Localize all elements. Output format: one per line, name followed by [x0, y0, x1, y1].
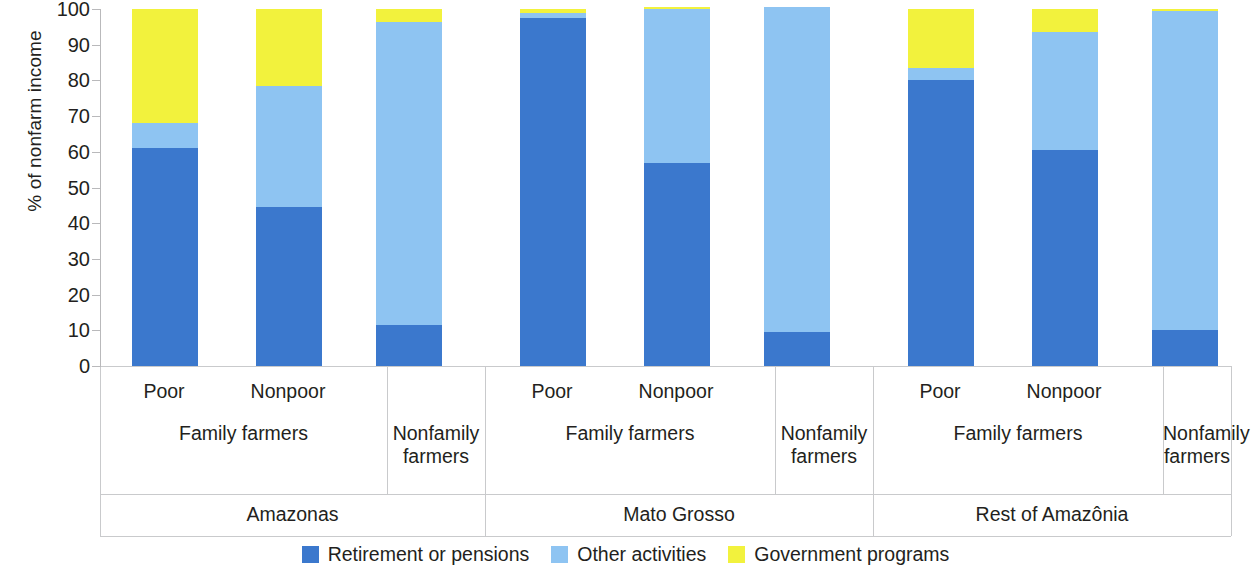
bar-column [376, 9, 442, 366]
bar-segment [132, 9, 198, 123]
x-label-nonfamily-line1: Nonfamily [775, 422, 873, 445]
y-axis-tick-label: 80 [24, 70, 90, 90]
y-axis-tick-mark [92, 80, 101, 81]
chart-legend: Retirement or pensionsOther activitiesGo… [0, 543, 1251, 566]
x-label-nonfamily-line2: farmers [775, 445, 873, 468]
legend-label: Retirement or pensions [328, 543, 530, 566]
y-axis-tick-label: 40 [24, 213, 90, 233]
label-divider-vertical [1231, 366, 1232, 536]
x-label-region: Mato Grosso [485, 503, 873, 526]
plot-area [101, 9, 1230, 366]
bar-segment [908, 80, 974, 366]
bar-column [256, 9, 322, 366]
x-label-family-farmers: Family farmers [873, 422, 1163, 445]
y-axis-tick-mark [92, 152, 101, 153]
x-label-poverty-class: Nonpoor [984, 380, 1144, 403]
legend-label: Other activities [577, 543, 706, 566]
x-label-family-farmers: Family farmers [100, 422, 387, 445]
bar-segment [1152, 11, 1218, 331]
bar-column [1152, 9, 1218, 366]
x-label-nonfamily-farmers: Nonfamilyfarmers [1163, 422, 1231, 468]
y-axis-tick-mark [92, 259, 101, 260]
bar-segment [644, 9, 710, 163]
x-label-nonfamily-farmers: Nonfamilyfarmers [387, 422, 485, 468]
x-axis-label-zone: PoorNonpoorPoorNonpoorPoorNonpoorFamily … [100, 366, 1231, 538]
bar-column [1032, 9, 1098, 366]
y-axis-tick-mark [92, 330, 101, 331]
label-divider-bottom [100, 536, 1231, 537]
bar-segment [520, 18, 586, 366]
bar-segment [764, 7, 830, 332]
x-label-nonfamily-line2: farmers [387, 445, 485, 468]
label-divider-top [100, 366, 1231, 367]
y-axis-tick-label: 60 [24, 142, 90, 162]
y-axis-tick-labels: 1009080706050403020100 [24, 0, 90, 380]
y-axis-tick-mark [92, 45, 101, 46]
legend-item[interactable]: Government programs [728, 543, 949, 566]
bar-segment [1032, 150, 1098, 366]
y-axis-tick-label: 90 [24, 35, 90, 55]
bar-column [908, 9, 974, 366]
y-axis-tick-label: 30 [24, 249, 90, 269]
legend-swatch-icon [728, 546, 745, 563]
bar-segment [908, 9, 974, 68]
legend-swatch-icon [302, 546, 319, 563]
y-axis-tick-mark [92, 223, 101, 224]
legend-label: Government programs [754, 543, 949, 566]
bar-segment [256, 86, 322, 207]
y-axis-tick-label: 0 [24, 356, 90, 376]
bar-column [764, 7, 830, 366]
legend-swatch-icon [551, 546, 568, 563]
x-label-nonfamily-line2: farmers [1163, 445, 1231, 468]
legend-item[interactable]: Other activities [551, 543, 706, 566]
stacked-bar-chart: % of nonfarm income 10090807060504030201… [0, 0, 1251, 573]
bar-segment [256, 9, 322, 86]
bar-segment [256, 207, 322, 366]
y-axis-tick-label: 70 [24, 106, 90, 126]
y-axis-tick-mark [92, 295, 101, 296]
x-label-nonfamily-line1: Nonfamily [387, 422, 485, 445]
bar-segment [764, 332, 830, 366]
bar-column [520, 9, 586, 366]
x-label-nonfamily-farmers: Nonfamilyfarmers [775, 422, 873, 468]
y-axis-tick-label: 20 [24, 285, 90, 305]
bar-segment [132, 148, 198, 366]
bar-column [644, 7, 710, 366]
label-divider-mid [100, 494, 1231, 495]
y-axis-tick-mark [92, 188, 101, 189]
bar-segment [132, 123, 198, 148]
x-label-region: Rest of Amazônia [873, 503, 1231, 526]
bar-segment [1032, 32, 1098, 150]
y-axis-tick-mark [92, 366, 101, 367]
bar-segment [376, 9, 442, 22]
y-axis-tick-mark [92, 116, 101, 117]
x-label-family-farmers: Family farmers [485, 422, 775, 445]
x-label-poverty-class: Nonpoor [208, 380, 368, 403]
bar-column [132, 9, 198, 366]
bar-segment [1152, 330, 1218, 366]
x-label-nonfamily-line1: Nonfamily [1163, 422, 1231, 445]
bar-segment [1032, 9, 1098, 32]
bar-segment [376, 325, 442, 366]
bar-segment [644, 163, 710, 366]
x-label-poverty-class: Nonpoor [596, 380, 756, 403]
legend-item[interactable]: Retirement or pensions [302, 543, 530, 566]
x-label-region: Amazonas [100, 503, 485, 526]
y-axis-tick-mark [92, 9, 101, 10]
y-axis-tick-label: 10 [24, 320, 90, 340]
y-axis-tick-label: 50 [24, 178, 90, 198]
bar-segment [908, 68, 974, 81]
bar-segment [376, 22, 442, 325]
y-axis-tick-label: 100 [24, 0, 90, 19]
